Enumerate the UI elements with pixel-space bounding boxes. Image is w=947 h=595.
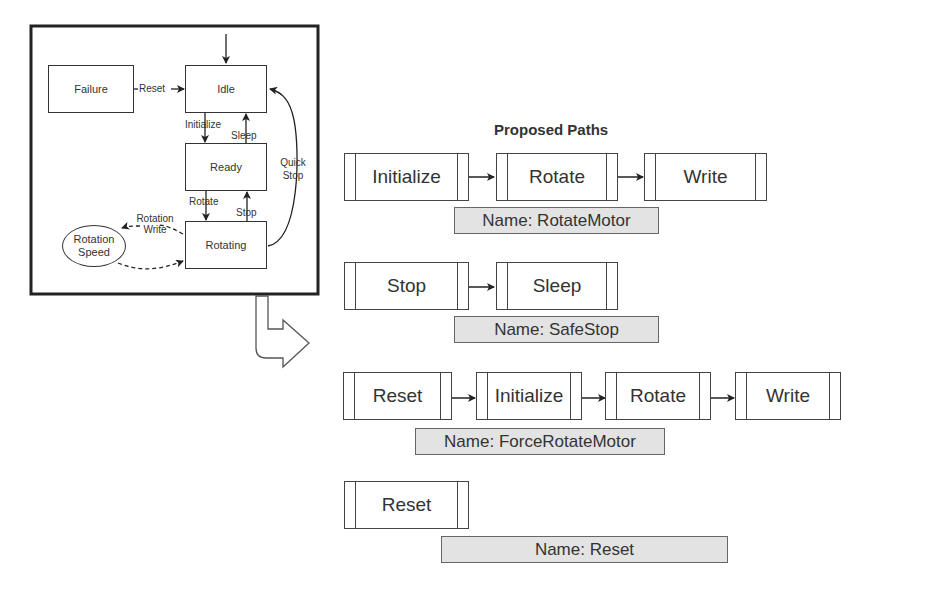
- path-step: Write: [735, 372, 841, 420]
- state-failure: Failure: [48, 65, 134, 113]
- hollow-arrow-icon: [256, 296, 309, 367]
- transition-sleep: Sleep: [231, 130, 257, 141]
- path-step: Sleep: [496, 262, 618, 310]
- transition-stop: Stop: [236, 207, 257, 218]
- transition-reset: Reset: [139, 83, 165, 94]
- path-step: Write: [644, 153, 767, 201]
- state-ready: Ready: [185, 143, 267, 191]
- step-label: Rotate: [529, 166, 585, 188]
- path-name-badge: Name: SafeStop: [454, 316, 659, 343]
- transition-rotate: Rotate: [189, 196, 218, 207]
- step-label: Reset: [382, 494, 432, 516]
- step-label: Stop: [387, 275, 426, 297]
- state-label: Idle: [217, 83, 235, 95]
- path-name-badge: Name: ForceRotateMotor: [415, 428, 665, 455]
- path-step: Rotate: [605, 372, 711, 420]
- state-rotating: Rotating: [185, 221, 267, 269]
- state-idle: Idle: [185, 65, 267, 113]
- step-label: Rotate: [630, 385, 686, 407]
- transition-initialize: Initialize: [185, 119, 221, 130]
- transition-quick-stop: Quick Stop: [278, 157, 308, 182]
- state-label: Rotation Speed: [67, 233, 121, 258]
- path-step: Reset: [344, 481, 469, 529]
- proposed-paths-title: Proposed Paths: [494, 121, 608, 138]
- state-label: Ready: [210, 161, 242, 173]
- path-name-badge: Name: Reset: [441, 536, 728, 563]
- transition-rotation-write: Rotation Write: [131, 213, 179, 235]
- step-label: Initialize: [495, 385, 564, 407]
- path-step: Initialize: [344, 153, 469, 201]
- path-step: Stop: [344, 262, 469, 310]
- path-step: Rotate: [496, 153, 618, 201]
- step-label: Reset: [373, 385, 423, 407]
- path-name-badge: Name: RotateMotor: [454, 207, 659, 234]
- state-rotation-speed: Rotation Speed: [62, 225, 126, 267]
- path-step: Reset: [343, 372, 452, 420]
- step-label: Write: [766, 385, 810, 407]
- path-step: Initialize: [476, 372, 582, 420]
- step-label: Initialize: [372, 166, 441, 188]
- step-label: Write: [684, 166, 728, 188]
- state-label: Failure: [74, 83, 108, 95]
- state-label: Rotating: [206, 239, 247, 251]
- step-label: Sleep: [533, 275, 582, 297]
